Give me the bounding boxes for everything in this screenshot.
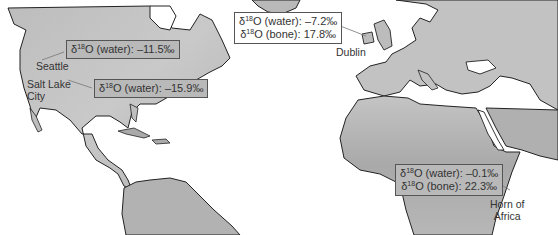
city-label-line: Salt Lake [27,78,71,90]
isotope-map: δ18O (water): –11.5‰ Seattle δ18O (water… [0,0,558,235]
seattle-isotope-callout: δ18O (water): –11.5‰ [66,40,180,59]
great-britain [374,20,392,50]
city-label-line: Horn of [490,198,524,210]
europe-asia [356,0,558,110]
south-america [122,178,240,235]
seattle-water-line: δ18O (water): –11.5‰ [71,43,175,56]
city-label-salt-lake-city: Salt Lake City [27,78,71,102]
cuba [118,128,150,138]
ireland [362,32,374,44]
horn-bone-line: δ18O (bone): 22.3‰ [400,180,498,193]
city-label-horn-of-africa: Horn of Africa [490,198,524,222]
salt-lake-city-water-line: δ18O (water): –15.9‰ [99,82,203,95]
horn-of-africa-isotope-callout: δ18O (water): –0.1‰ δ18O (bone): 22.3‰ [395,164,503,196]
city-label-dublin: Dublin [336,46,366,58]
city-label-line: City [27,90,71,102]
city-label-seattle: Seattle [36,60,69,72]
city-label-line: Africa [490,210,524,222]
hispaniola [152,139,170,144]
dublin-water-line: δ18O (water): –7.2‰ [239,15,337,28]
salt-lake-city-isotope-callout: δ18O (water): –15.9‰ [94,79,208,98]
dublin-bone-line: δ18O (bone): 17.8‰ [239,28,337,41]
horn-water-line: δ18O (water): –0.1‰ [400,167,498,180]
dublin-isotope-callout: δ18O (water): –7.2‰ δ18O (bone): 17.8‰ [234,12,342,44]
